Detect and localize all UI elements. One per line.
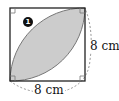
figure-number-badge: 1 (23, 17, 33, 27)
side-length-label-bottom: 8 cm (33, 84, 65, 97)
right-angle-marker-bottom-right (80, 76, 85, 81)
shaded-lens (10, 8, 85, 81)
right-angle-marker-top-left (10, 8, 15, 13)
side-length-label-right: 8 cm (89, 40, 119, 53)
